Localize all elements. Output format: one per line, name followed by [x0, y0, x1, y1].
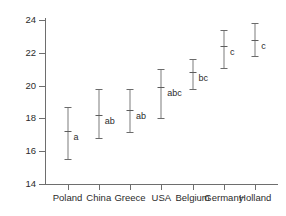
y-axis-tick-label: 14 [6, 179, 36, 189]
y-axis-tick-label: 22 [6, 48, 36, 58]
mean-marker [95, 115, 102, 116]
mean-marker [127, 110, 134, 111]
y-axis-tick [39, 53, 45, 54]
x-axis-tick-label: USA [152, 192, 172, 203]
y-axis-tick [39, 184, 45, 185]
x-axis-tick [130, 185, 131, 190]
x-axis-tick-label: Germany [204, 192, 243, 203]
mean-marker [220, 46, 227, 47]
error-bar-lower-cap [64, 159, 71, 160]
x-axis-tick-label: Greece [114, 192, 145, 203]
y-axis-tick [39, 118, 45, 119]
x-axis-tick-label: China [86, 192, 111, 203]
error-bar-whisker [192, 59, 193, 89]
error-bar-upper-cap [95, 89, 102, 90]
x-axis-tick [99, 185, 100, 190]
x-axis-tick [224, 185, 225, 190]
error-bar-upper-cap [220, 30, 227, 31]
mean-marker [189, 72, 196, 73]
error-bar-lower-cap [95, 138, 102, 139]
error-bar-upper-cap [158, 69, 165, 70]
mean-marker [158, 87, 165, 88]
error-bar-lower-cap [220, 68, 227, 69]
significance-group-label: c [230, 48, 235, 57]
x-axis-tick-label: Holland [239, 192, 271, 203]
mean-marker [252, 40, 259, 41]
y-axis-tick [39, 20, 45, 21]
error-bar-upper-cap [252, 23, 259, 24]
x-axis-tick [161, 185, 162, 190]
mean-marker [64, 131, 71, 132]
error-bar-whisker [161, 69, 162, 118]
error-bar-lower-cap [127, 132, 134, 133]
significance-group-label: c [261, 42, 266, 51]
x-axis-tick-label: Poland [53, 192, 83, 203]
error-bar-upper-cap [127, 89, 134, 90]
significance-group-label: ab [136, 112, 146, 121]
significance-group-label: bc [199, 74, 209, 83]
y-axis-tick-label: 20 [6, 81, 36, 91]
y-axis-tick [39, 151, 45, 152]
significance-group-label: a [74, 133, 79, 142]
error-bar-upper-cap [64, 107, 71, 108]
error-bar-whisker [67, 107, 68, 159]
error-bar-lower-cap [158, 118, 165, 119]
significance-group-label: abc [167, 89, 182, 98]
chart-canvas: 141618202224 PolandChinaGreeceUSABelgium… [0, 0, 286, 216]
error-bar-whisker [223, 30, 224, 68]
y-axis-tick-label: 16 [6, 146, 36, 156]
x-axis-tick [68, 185, 69, 190]
error-bar-whisker [98, 89, 99, 138]
x-axis-tick [193, 185, 194, 190]
error-bar-lower-cap [252, 56, 259, 57]
y-axis-tick-label: 18 [6, 113, 36, 123]
x-axis-tick [255, 185, 256, 190]
significance-group-label: ab [105, 117, 115, 126]
y-axis-tick [39, 86, 45, 87]
error-bar-upper-cap [189, 59, 196, 60]
y-axis-line [45, 18, 46, 185]
y-axis-tick-label: 24 [6, 15, 36, 25]
error-bar-lower-cap [189, 89, 196, 90]
